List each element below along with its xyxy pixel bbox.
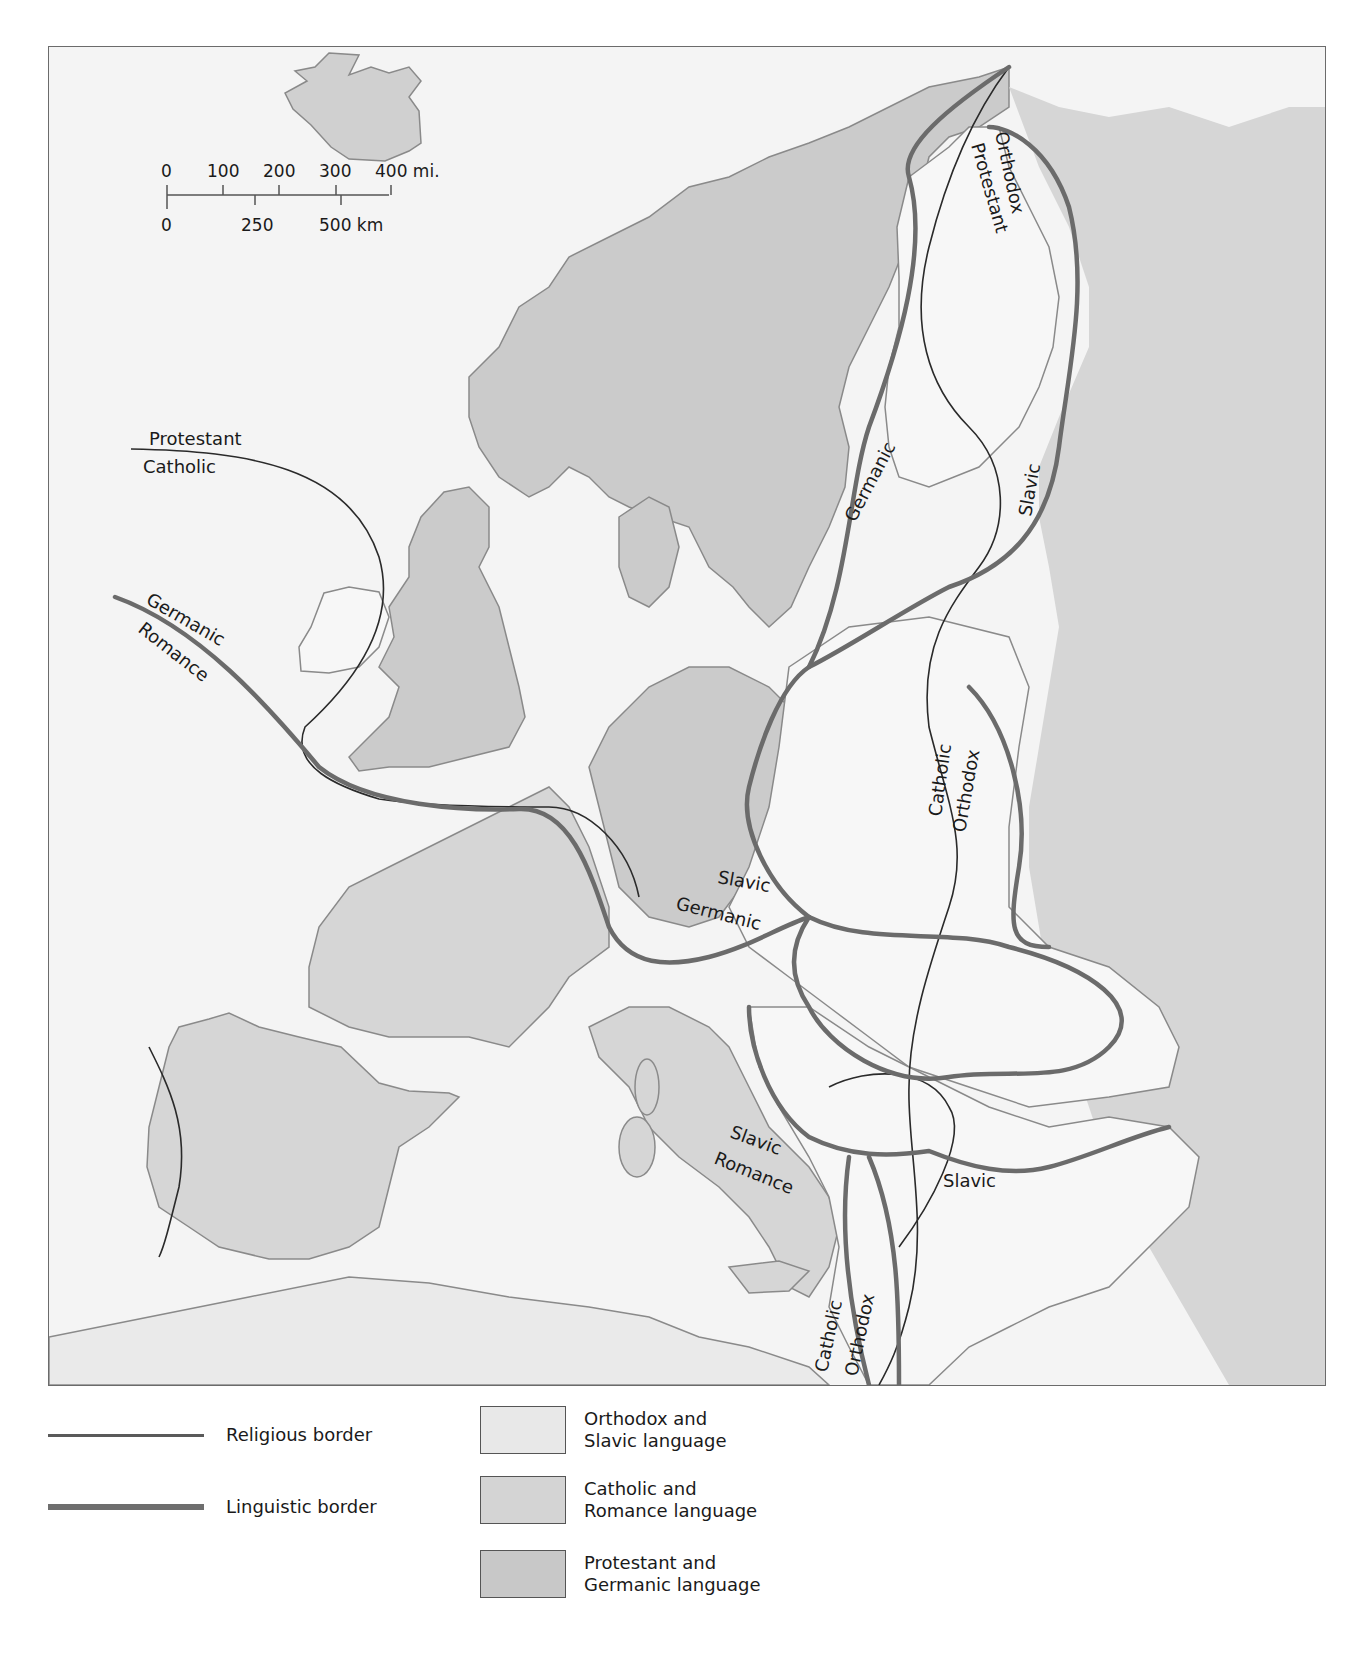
legend-orthodox-slavic: Orthodox and Slavic language	[480, 1406, 727, 1454]
legend-linguistic-border-label: Linguistic border	[226, 1496, 377, 1518]
label-catholic-south: Catholic	[810, 1298, 846, 1374]
legend-catholic-romance: Catholic and Romance language	[480, 1476, 757, 1524]
map-legend: Religious border Linguistic border Ortho…	[48, 1420, 1324, 1660]
legend-protestant-germanic: Protestant and Germanic language	[480, 1550, 761, 1598]
europe-map: 0 100 200 300 400 mi. 0 250 500 km Prote…	[49, 47, 1325, 1385]
scale-mi-200: 200	[263, 161, 295, 181]
map-frame: 0 100 200 300 400 mi. 0 250 500 km Prote…	[48, 46, 1326, 1386]
religious-border-swatch	[48, 1434, 204, 1437]
france-landmass	[309, 787, 609, 1047]
scale-km-0: 0	[161, 215, 172, 235]
north-africa-landmass	[49, 1277, 829, 1385]
sardinia-island	[619, 1117, 655, 1177]
label-protestant-west: Protestant	[149, 428, 242, 449]
protestant-germanic-swatch	[480, 1550, 566, 1598]
corsica-island	[635, 1059, 659, 1115]
scale-mi-400: 400 mi.	[375, 161, 440, 181]
linguistic-border-swatch	[48, 1504, 204, 1510]
legend-religious-border: Religious border	[48, 1420, 448, 1450]
scale-km-500: 500 km	[319, 215, 383, 235]
label-catholic-west: Catholic	[143, 456, 216, 477]
legend-protestant-germanic-line2: Germanic language	[584, 1574, 761, 1596]
iberia-landmass	[147, 1013, 459, 1259]
legend-orthodox-slavic-line1: Orthodox and	[584, 1408, 727, 1430]
legend-religious-border-label: Religious border	[226, 1424, 372, 1446]
scale-bar: 0 100 200 300 400 mi. 0 250 500 km	[161, 161, 440, 235]
legend-catholic-romance-line2: Romance language	[584, 1500, 757, 1522]
scale-mi-0: 0	[161, 161, 172, 181]
label-slavic-balkan: Slavic	[943, 1170, 996, 1191]
legend-linguistic-border: Linguistic border	[48, 1492, 448, 1522]
scale-mi-300: 300	[319, 161, 351, 181]
iceland-landmass	[285, 53, 421, 161]
catholic-romance-swatch	[480, 1476, 566, 1524]
legend-orthodox-slavic-line2: Slavic language	[584, 1430, 727, 1452]
scale-mi-100: 100	[207, 161, 239, 181]
scale-km-250: 250	[241, 215, 273, 235]
orthodox-slavic-swatch	[480, 1406, 566, 1454]
legend-protestant-germanic-line1: Protestant and	[584, 1552, 761, 1574]
denmark-landmass	[619, 497, 679, 607]
legend-catholic-romance-line1: Catholic and	[584, 1478, 757, 1500]
